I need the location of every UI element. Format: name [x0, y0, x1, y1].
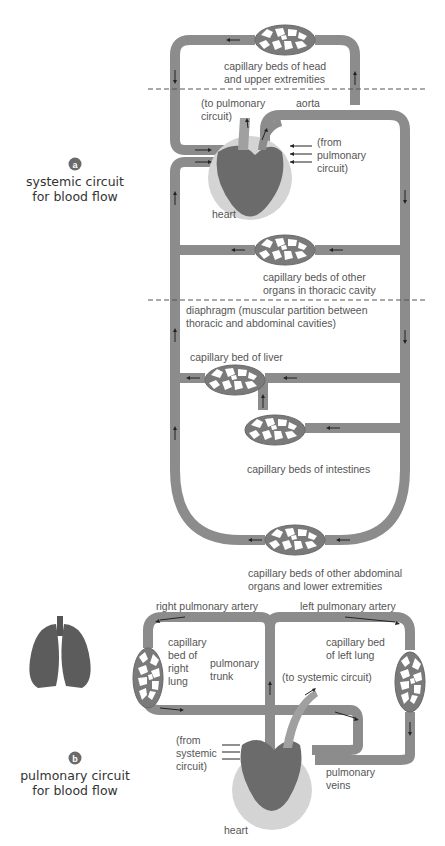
right-lung-capillary-bed	[133, 648, 163, 708]
pulmonary-circuit: b pulmonary circuit for blood flow right…	[20, 600, 425, 836]
abdominal-capillary-bed	[265, 525, 325, 555]
badge-b-label: b	[72, 754, 78, 764]
circulation-diagram: a systemic circuit for blood flow capill…	[0, 0, 445, 846]
label-right-lung-bed-4: lung	[168, 675, 188, 687]
panel-a-title-2: for blood flow	[32, 189, 118, 204]
panel-b-title-1: pulmonary circuit	[20, 768, 130, 783]
label-aorta: aorta	[296, 97, 320, 109]
label-left-pulmonary-artery: left pulmonary artery	[300, 600, 396, 612]
label-pulmonary-veins: pulmonary	[326, 766, 376, 778]
label-to-systemic: (to systemic circuit)	[282, 671, 372, 683]
label-pulmonary-trunk: pulmonary	[210, 657, 260, 669]
label-right-lung-bed-3: right	[168, 662, 189, 674]
label-heart-a: heart	[212, 208, 236, 220]
liver-capillary-bed	[205, 365, 265, 395]
label-right-lung-bed-2: bed of	[168, 649, 197, 661]
label-liver-bed: capillary bed of liver	[190, 351, 283, 363]
label-from-systemic-3: circuit)	[176, 760, 207, 772]
label-thoracic-beds: capillary beds of other	[263, 271, 366, 283]
label-right-pulmonary-artery: right pulmonary artery	[156, 600, 259, 612]
label-abdominal-beds: capillary beds of other abdominal	[248, 567, 402, 579]
lungs-icon	[29, 616, 90, 688]
label-head-beds: capillary beds of head	[224, 60, 326, 72]
label-from-pulmonary-2: pulmonary	[317, 149, 367, 161]
head-capillary-bed	[255, 25, 315, 55]
label-left-lung-bed-2: of left lung	[326, 649, 375, 661]
label-diaphragm-2: thoracic and abdominal cavities)	[186, 317, 336, 329]
label-right-lung-bed: capillary	[168, 636, 207, 648]
label-thoracic-beds-2: organs in thoracic cavity	[263, 284, 376, 296]
thoracic-capillary-bed	[255, 235, 315, 265]
panel-b-title-2: for blood flow	[32, 783, 118, 798]
label-from-pulmonary-3: circuit)	[317, 162, 348, 174]
label-abdominal-beds-2: organs and lower extremities	[248, 580, 382, 592]
label-pulmonary-veins-2: veins	[326, 779, 351, 791]
label-to-pulmonary: (to pulmonary	[201, 97, 266, 109]
label-left-lung-bed: capillary bed	[326, 636, 385, 648]
label-from-systemic: (from	[176, 734, 201, 746]
label-intestine-beds: capillary beds of intestines	[247, 463, 370, 475]
label-diaphragm: diaphragm (muscular partition between	[186, 304, 368, 316]
label-pulmonary-trunk-2: trunk	[210, 670, 234, 682]
systemic-circuit: a systemic circuit for blood flow capill…	[26, 25, 428, 592]
label-to-pulmonary-2: circuit)	[201, 110, 232, 122]
label-head-beds-2: and upper extremities	[224, 73, 325, 85]
heart-icon	[208, 118, 292, 220]
intestine-capillary-bed	[245, 415, 305, 445]
label-from-systemic-2: systemic	[176, 747, 217, 759]
panel-a-title-1: systemic circuit	[26, 174, 124, 189]
label-heart-b: heart	[224, 824, 248, 836]
label-from-pulmonary: (from	[317, 136, 342, 148]
left-lung-capillary-bed	[395, 652, 425, 712]
